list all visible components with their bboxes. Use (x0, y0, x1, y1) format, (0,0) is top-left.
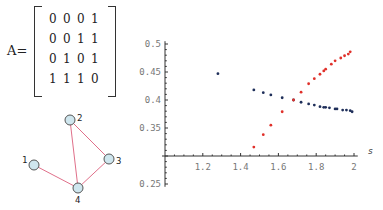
node-label: 2 (77, 113, 82, 123)
node-label: 1 (22, 155, 27, 165)
red-data-point (252, 146, 255, 149)
red-data-point (343, 54, 346, 57)
y-tick-label: 0.5 (145, 39, 161, 49)
y-tick-label: 0.45 (139, 67, 161, 77)
red-data-point (339, 57, 342, 60)
red-data-point (269, 124, 272, 127)
blue-data-point (252, 89, 255, 92)
red-data-point (313, 77, 316, 80)
red-data-point (319, 73, 322, 76)
graph-edge (70, 120, 78, 188)
blue-data-point (262, 91, 265, 94)
scatter-plot: 1.21.41.61.820.50.450.40.350.25s (139, 39, 373, 189)
graph-node (73, 183, 83, 193)
blue-data-point (336, 108, 339, 111)
red-data-point (347, 53, 350, 56)
red-data-point (281, 110, 284, 113)
blue-data-point (345, 109, 348, 112)
red-data-point (334, 59, 337, 62)
blue-data-point (307, 103, 310, 106)
graph-node (104, 154, 114, 164)
node-label: 4 (75, 195, 80, 205)
graph-edge (34, 165, 78, 188)
figure-canvas: 1234 1.21.41.61.820.50.450.40.350.25s (0, 0, 383, 210)
graph-node (29, 160, 39, 170)
blue-data-point (313, 104, 316, 107)
red-data-point (330, 63, 333, 66)
y-tick-label: 0.25 (139, 179, 161, 189)
network-graph: 1234 (22, 113, 121, 205)
blue-data-point (217, 72, 220, 75)
x-tick-label: 1.2 (195, 162, 211, 172)
blue-data-point (269, 94, 272, 97)
y-tick-label: 0.4 (145, 95, 161, 105)
blue-data-point (319, 105, 322, 108)
x-axis-label: s (368, 146, 373, 156)
x-tick-label: 2 (351, 162, 356, 172)
graph-edge (78, 159, 109, 188)
red-data-point (324, 68, 327, 71)
red-data-point (349, 50, 352, 53)
blue-data-point (328, 106, 331, 109)
blue-data-point (281, 96, 284, 99)
graph-node (65, 115, 75, 125)
blue-data-point (324, 106, 327, 109)
red-data-point (307, 82, 310, 85)
graph-edge (70, 120, 109, 159)
blue-data-point (300, 101, 303, 104)
blue-data-point (341, 109, 344, 112)
red-data-point (262, 133, 265, 136)
red-data-point (292, 99, 295, 102)
blue-data-point (351, 110, 354, 113)
y-tick-label: 0.35 (139, 123, 161, 133)
x-tick-label: 1.6 (270, 162, 286, 172)
x-tick-label: 1.8 (308, 162, 324, 172)
red-data-point (300, 91, 303, 94)
node-label: 3 (116, 156, 121, 166)
x-tick-label: 1.4 (232, 162, 248, 172)
